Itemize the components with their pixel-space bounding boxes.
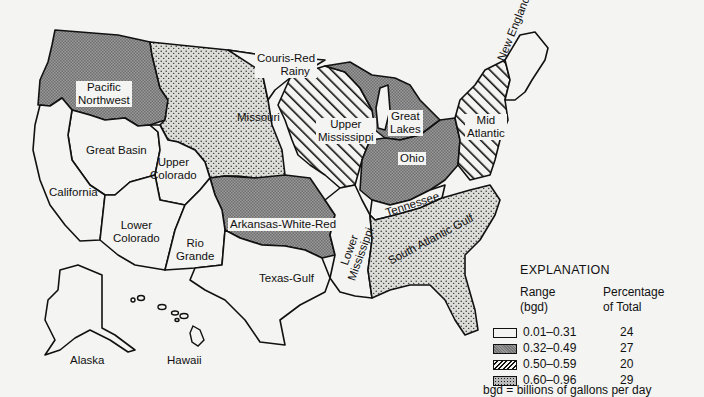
legend-row: 0.01–0.31 24 bbox=[493, 325, 703, 341]
legend-range-header: Range(bgd) bbox=[520, 285, 555, 315]
label-missouri: Missouri bbox=[237, 111, 280, 124]
label-upper-mississippi: UpperMississippi bbox=[316, 118, 376, 144]
legend-row: 0.32–0.49 27 bbox=[493, 341, 703, 357]
swatch-white-icon bbox=[493, 328, 517, 338]
region-hawaii bbox=[131, 296, 204, 347]
label-souris-red-rainy: Couris-RedRainy bbox=[255, 52, 317, 78]
swatch-gray-icon bbox=[493, 344, 517, 354]
label-great-lakes: GreatLakes bbox=[388, 110, 423, 136]
label-arkansas-white-red: Arkansas-White-Red bbox=[228, 218, 338, 231]
label-rio-grande: RioGrande bbox=[176, 237, 214, 263]
label-lower-colorado: LowerColorado bbox=[113, 219, 160, 245]
label-texas-gulf: Texas-Gulf bbox=[259, 272, 314, 285]
label-ohio: Ohio bbox=[398, 152, 426, 165]
legend-title: EXPLANATION bbox=[520, 263, 610, 277]
swatch-hatch-icon bbox=[493, 360, 517, 370]
region-alaska bbox=[45, 265, 135, 355]
legend-row: 0.50–0.59 20 bbox=[493, 357, 703, 373]
label-california: California bbox=[49, 186, 98, 199]
label-great-basin: Great Basin bbox=[86, 144, 147, 157]
label-pacific-northwest: PacificNorthwest bbox=[76, 81, 132, 107]
label-mid-atlantic: MidAtlantic bbox=[465, 114, 507, 140]
label-alaska: Alaska bbox=[70, 354, 105, 367]
label-hawaii: Hawaii bbox=[167, 354, 202, 367]
legend-unit-note: bgd = billions of gallons per day bbox=[483, 383, 651, 397]
legend-percentage-header: Percentageof Total bbox=[603, 285, 664, 315]
label-upper-colorado: UpperColorado bbox=[150, 156, 197, 182]
